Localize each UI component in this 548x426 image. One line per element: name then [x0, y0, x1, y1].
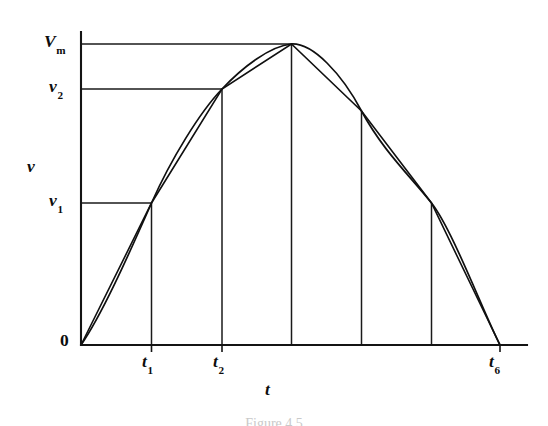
origin-label: 0 [60, 332, 69, 350]
x-tick-label-t6-subscript: 6 [494, 364, 500, 376]
y-tick-label-v1: v1 [49, 192, 62, 213]
x-tick-label-t1: t1 [142, 353, 153, 374]
figure-caption: Figure 4.5 [0, 417, 548, 426]
y-tick-label-v2: v2 [49, 78, 62, 99]
y-tick-label-vm-subscript: m [56, 44, 65, 56]
velocity-time-chart [0, 0, 548, 426]
figure-root: Vm v2 v1 v 0 t t1 t2 t6 Figure 4.5 [0, 0, 548, 426]
y-tick-label-v1-subscript: 1 [57, 203, 63, 215]
y-tick-label-vm: Vm [44, 33, 65, 54]
x-tick-label-t6: t6 [489, 353, 500, 374]
x-tick-label-t2: t2 [213, 353, 224, 374]
y-axis-title: v [27, 158, 35, 176]
x-axis-title: t [265, 381, 270, 399]
y-tick-label-v1-base: v [49, 190, 57, 210]
x-tick-label-t2-subscript: 2 [218, 364, 224, 376]
y-tick-label-v2-base: v [49, 76, 57, 96]
y-tick-label-vm-base: V [44, 31, 56, 51]
y-tick-label-v2-subscript: 2 [57, 89, 63, 101]
x-tick-label-t1-subscript: 1 [147, 364, 153, 376]
